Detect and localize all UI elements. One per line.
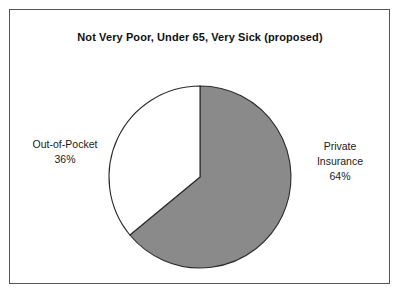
pie-chart-figure: Not Very Poor, Under 65, Very Sick (prop… <box>0 0 400 292</box>
pie-label-private-insurance: Private Insurance 64% <box>300 139 380 184</box>
pie-label-private-insurance-name-line1: Private <box>300 139 380 154</box>
pie-label-private-insurance-name-line2: Insurance <box>300 154 380 169</box>
pie-label-out-of-pocket-percent: 36% <box>18 152 112 167</box>
pie-label-out-of-pocket-name: Out-of-Pocket <box>18 137 112 152</box>
pie-label-private-insurance-percent: 64% <box>300 169 380 184</box>
pie-label-out-of-pocket: Out-of-Pocket 36% <box>18 137 112 167</box>
